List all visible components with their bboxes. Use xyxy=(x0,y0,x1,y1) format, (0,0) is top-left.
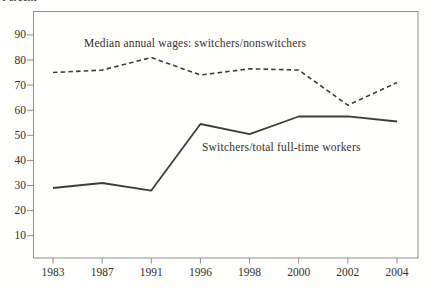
y-axis-tick-label: 50 xyxy=(0,128,26,142)
x-axis-tick-label: 2004 xyxy=(375,265,419,279)
x-axis-tick-label: 2000 xyxy=(277,265,321,279)
y-axis-tick-label: 10 xyxy=(0,228,26,242)
annotation-switchers-share-series: Switchers/total full-time workers xyxy=(202,141,361,153)
y-axis-tick-label: 20 xyxy=(0,203,26,217)
x-axis-tick-label: 1998 xyxy=(228,265,272,279)
y-axis-tick-label: 80 xyxy=(0,53,26,67)
x-axis-tick-label: 1987 xyxy=(80,265,124,279)
y-axis-tick-label: 70 xyxy=(0,78,26,92)
series-line-dashed xyxy=(53,57,397,105)
series-line-solid xyxy=(53,116,397,190)
wage-switchers-line-chart-figure: Percent Median annual wages: switchers/n… xyxy=(0,0,433,295)
x-axis-tick-label: 1991 xyxy=(129,265,173,279)
annotation-median-wages-series: Median annual wages: switchers/nonswitch… xyxy=(84,37,306,49)
y-axis-tick-label: 30 xyxy=(0,178,26,192)
y-axis-tick-label: 90 xyxy=(0,27,26,41)
y-axis-tick-label: 60 xyxy=(0,103,26,117)
x-axis-tick-label: 1996 xyxy=(178,265,222,279)
x-axis-tick-label: 2002 xyxy=(326,265,370,279)
x-axis-tick-label: 1983 xyxy=(31,265,75,279)
y-axis-tick-label: 40 xyxy=(0,153,26,167)
